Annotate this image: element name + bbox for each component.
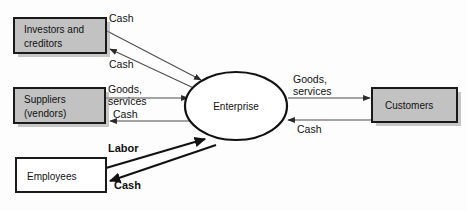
edge-label-employees-cash: Cash: [114, 179, 141, 191]
node-employees-label-line1: Employees: [27, 171, 76, 182]
edge-label-suppliers-goods-line2: services: [108, 95, 147, 107]
flow-diagram-svg: Enterprise Investors and creditors Suppl…: [0, 0, 467, 211]
diagram-canvas: Enterprise Investors and creditors Suppl…: [0, 0, 467, 211]
edge-label-customers-goods-line1: Goods,: [293, 73, 327, 85]
node-employees[interactable]: Employees: [16, 158, 106, 192]
node-investors-label-line1: Investors and: [24, 24, 84, 35]
edge-label-investors-cash-out: Cash: [109, 12, 134, 24]
node-customers[interactable]: Customers: [372, 88, 461, 126]
edge-label-suppliers-goods-line1: Goods,: [108, 83, 142, 95]
edge-label-employees-labor: Labor: [108, 142, 139, 154]
edge-investors-to-enterprise: [107, 31, 201, 80]
node-suppliers-label-line2: (vendors): [24, 108, 66, 119]
node-investors[interactable]: Investors and creditors: [14, 18, 110, 57]
edge-label-investors-cash-in: Cash: [109, 58, 134, 70]
node-suppliers-label-line1: Suppliers: [24, 94, 66, 105]
node-investors-label-line2: creditors: [24, 38, 62, 49]
edge-label-customers-goods-line2: services: [293, 85, 332, 97]
node-customers-label-line1: Customers: [385, 100, 433, 111]
edge-label-suppliers-cash: Cash: [113, 108, 138, 120]
node-enterprise-label: Enterprise: [213, 101, 259, 112]
node-suppliers[interactable]: Suppliers (vendors): [14, 88, 109, 127]
node-enterprise[interactable]: Enterprise: [185, 72, 287, 140]
edge-label-customers-cash: Cash: [297, 123, 322, 135]
